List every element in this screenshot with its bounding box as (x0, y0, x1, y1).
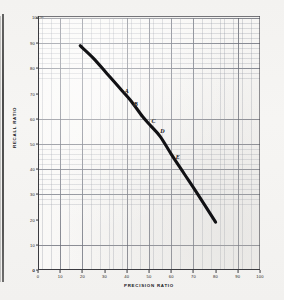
x-tick-mark (215, 270, 216, 273)
point-label-e: E (176, 154, 180, 160)
scanned-page: 100 % RECALL RATIO PRECISION RATIO 01020… (0, 0, 284, 300)
precision-recall-curve (80, 46, 215, 222)
x-tick-mark (193, 270, 194, 273)
x-tick-label: 70 (191, 274, 196, 279)
x-tick-label: 20 (80, 274, 85, 279)
x-tick-label: 30 (102, 274, 107, 279)
y-tick-label: 10 (30, 242, 35, 247)
x-tick-label: 50 (147, 274, 152, 279)
x-tick-mark (171, 270, 172, 273)
y-tick-label: 40 (30, 167, 35, 172)
x-tick-label: 0 (37, 274, 39, 279)
y-tick-label: 70 (30, 91, 35, 96)
y-origin-label: 0 (33, 268, 35, 273)
y-tick-label: 50 (30, 142, 35, 147)
y-tick-label: 20 (30, 217, 35, 222)
point-label-d: D (160, 128, 164, 134)
y-tick-label: 60 (30, 116, 35, 121)
plot-border-top (38, 16, 260, 17)
x-tick-mark (260, 270, 261, 273)
chart-plot-area: 01020304050607080900 0102030405060708090… (38, 18, 260, 270)
x-tick-label: 40 (124, 274, 129, 279)
x-tick-label: 90 (235, 274, 240, 279)
point-label-b: B (134, 101, 138, 107)
curve-svg (38, 18, 260, 270)
x-tick-mark (149, 270, 150, 273)
x-tick-label: 10 (58, 274, 63, 279)
y-axis-title: RECALL RATIO (12, 107, 17, 148)
y-tick-label: 90 (30, 41, 35, 46)
scan-edge-artifact (2, 14, 4, 282)
x-tick-mark (60, 270, 61, 273)
x-tick-mark (38, 270, 39, 273)
x-tick-mark (104, 270, 105, 273)
y-tick-label: 80 (30, 66, 35, 71)
x-axis-title: PRECISION RATIO (124, 283, 174, 288)
x-tick-mark (126, 270, 127, 273)
x-tick-label: 80 (213, 274, 218, 279)
x-tick-mark (237, 270, 238, 273)
point-label-a: A (125, 88, 129, 94)
point-label-c: C (151, 118, 155, 124)
scan-edge-artifact-secondary (0, 16, 1, 282)
x-tick-label: 60 (169, 274, 174, 279)
y-tick-label: 30 (30, 192, 35, 197)
x-tick-label: 100 (256, 274, 263, 279)
x-tick-mark (82, 270, 83, 273)
